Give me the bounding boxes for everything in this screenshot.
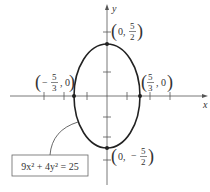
svg-text:): ) [167,72,173,93]
x-axis-arrow-icon [202,94,208,98]
x-axis-label: x [202,99,208,110]
bottom-vertex-point [105,146,109,150]
svg-text:0,: 0, [118,151,126,162]
y-axis-label: y [111,3,117,14]
y-axis-arrow-icon [105,4,109,10]
right-covertex-point [138,94,142,98]
bottom-vertex-label: ( 0, − 5 2 ) [111,146,154,167]
svg-text:): ) [69,72,75,93]
svg-text:(: ( [111,146,117,167]
top-vertex-point [105,42,109,46]
svg-text:5: 5 [141,146,146,156]
y-axis [103,4,111,185]
left-covertex-point [72,94,76,98]
svg-text:2: 2 [130,32,135,42]
svg-text:−: − [42,77,48,88]
svg-text:(: ( [111,21,117,42]
svg-text:): ) [137,21,143,42]
right-covertex-label: ( 5 3 , 0 ) [141,72,173,93]
x-axis [10,92,208,100]
svg-text:(: ( [141,72,147,93]
ellipse-diagram: y x ( 0, 5 2 ) ( 0, − 5 2 ) ( − 5 3 , 0 … [0,0,210,192]
svg-text:−: − [131,150,137,161]
svg-text:, 0: , 0 [156,77,166,88]
top-vertex-label: ( 0, 5 2 ) [111,21,143,42]
svg-text:2: 2 [141,157,146,167]
svg-text:5: 5 [148,72,153,82]
equation-box: 9x² + 4y² = 25 [12,155,88,176]
svg-text:3: 3 [52,83,57,93]
left-covertex-label: ( − 5 3 , 0 ) [35,72,75,93]
svg-text:): ) [148,146,154,167]
svg-text:(: ( [35,72,41,93]
equation-leader-line [50,122,78,155]
equation-text: 9x² + 4y² = 25 [21,161,78,172]
svg-text:3: 3 [148,83,153,93]
svg-text:5: 5 [130,21,135,31]
svg-text:0,: 0, [118,26,126,37]
svg-text:5: 5 [52,72,57,82]
